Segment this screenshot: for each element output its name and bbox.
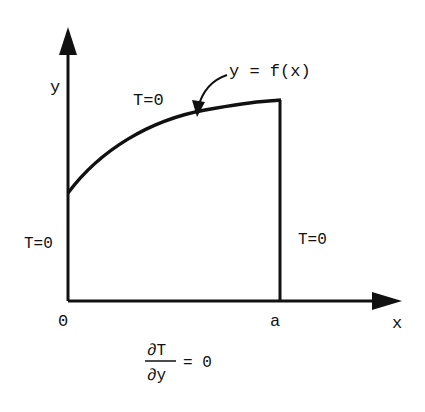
curve-f-of-x — [68, 100, 281, 193]
bc-bottom-denominator: ∂y — [147, 367, 167, 385]
y-axis — [59, 27, 77, 301]
origin-label: 0 — [58, 312, 68, 331]
curve-label: y = f(x) — [229, 62, 311, 81]
bc-right-label: T=0 — [298, 231, 327, 249]
x-axis-arrow-icon — [372, 292, 402, 310]
a-label: a — [270, 312, 280, 331]
y-axis-arrow-icon — [59, 27, 77, 55]
leader-arrow-icon — [192, 100, 205, 117]
bc-left-label: T=0 — [24, 235, 53, 253]
diagram-canvas: y x 0 a y = f(x) T=0 T=0 T=0 ∂T ∂y = 0 — [0, 0, 425, 412]
bc-bottom-numerator: ∂T — [147, 342, 166, 360]
bc-bottom: ∂T ∂y = 0 — [145, 342, 212, 385]
x-axis — [68, 292, 402, 310]
x-axis-label: x — [392, 314, 402, 333]
bc-bottom-rhs: = 0 — [183, 354, 212, 372]
bc-top-label: T=0 — [133, 91, 164, 110]
y-axis-label: y — [50, 78, 60, 97]
